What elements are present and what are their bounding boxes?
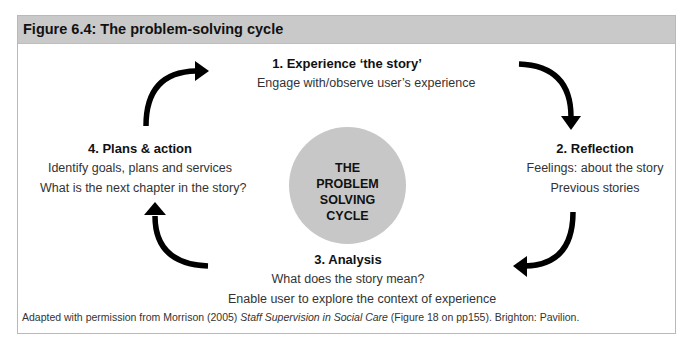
step-2-heading: 2. Reflection: [525, 140, 665, 158]
diagram-stage: 1. Experience ‘the story’ Engage with/ob…: [0, 0, 695, 339]
center-label-line-1: THE: [289, 160, 406, 176]
step-4: 4. Plans & action Identify goals, plans …: [40, 140, 240, 198]
caption-book-title: Staff Supervision in Social Care: [240, 311, 388, 323]
step-1-heading: 1. Experience ‘the story’: [257, 55, 437, 73]
step-4-heading: 4. Plans & action: [40, 140, 240, 158]
step-1: 1. Experience ‘the story’ Engage with/ob…: [257, 55, 437, 93]
arrow-to-step-2: [519, 64, 581, 130]
arrow-to-step-1: [146, 61, 209, 126]
arrow-to-step-3: [513, 212, 573, 277]
caption-suffix: (Figure 18 on pp155). Brighton: Pavilion…: [388, 311, 579, 323]
center-label-line-4: CYCLE: [289, 208, 406, 224]
center-label-line-3: SOLVING: [289, 192, 406, 208]
step-3-line-2: Enable user to explore the context of ex…: [228, 289, 468, 309]
step-2-line-2: Previous stories: [525, 178, 665, 198]
step-3-line-1: What does the story mean?: [228, 269, 468, 289]
step-1-line-1: Engage with/observe user’s experience: [257, 73, 437, 93]
center-label: THE PROBLEM SOLVING CYCLE: [289, 160, 406, 224]
step-4-line-1: Identify goals, plans and services: [40, 158, 240, 178]
center-circle: THE PROBLEM SOLVING CYCLE: [289, 127, 406, 244]
source-caption: Adapted with permission from Morrison (2…: [22, 311, 579, 323]
step-2: 2. Reflection Feelings: about the story …: [525, 140, 665, 198]
caption-prefix: Adapted with permission from Morrison (2…: [22, 311, 240, 323]
step-4-line-2: What is the next chapter in the story?: [40, 178, 240, 198]
step-2-line-1: Feelings: about the story: [525, 158, 665, 178]
arrow-to-step-4: [144, 202, 208, 266]
step-3-heading: 3. Analysis: [228, 251, 468, 269]
step-3: 3. Analysis What does the story mean? En…: [228, 251, 468, 309]
center-label-line-2: PROBLEM: [289, 176, 406, 192]
